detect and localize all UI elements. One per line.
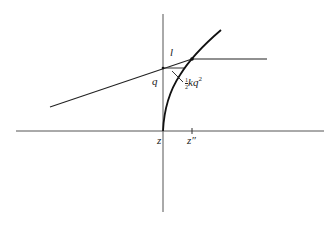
axis-point [162,67,165,70]
intersection-point [190,57,194,61]
diagram-figure [0,0,334,226]
tangent-line [50,59,192,107]
label-z: z [157,135,161,146]
annotation-exponent: 2 [198,75,202,83]
annotation-body: kq [188,76,198,88]
label-half-kq-squared: 1 2 kq2 [185,76,202,90]
label-l: l [170,47,173,58]
diagram-canvas: l q z z″ 1 2 kq2 [0,0,334,226]
label-z-double-prime: z″ [187,135,196,146]
label-q: q [152,76,158,87]
